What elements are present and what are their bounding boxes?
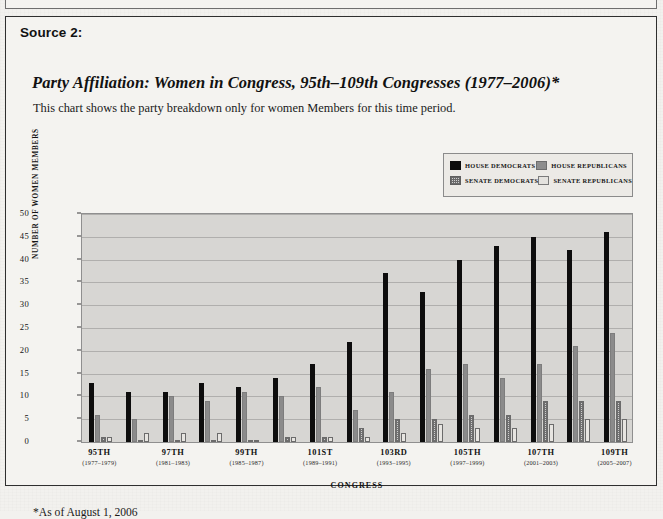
bar-hd [310, 364, 315, 442]
bar-group [126, 214, 150, 442]
bar-hd [236, 387, 241, 442]
bar-hd [604, 232, 609, 442]
x-axis-title: CONGRESS [81, 481, 633, 490]
bar-hd [199, 383, 204, 442]
bar-hd [567, 250, 572, 442]
legend-row-1: HOUSE DEMOCRATS HOUSE REPUBLICANS [450, 158, 627, 173]
y-axis-title: NUMBER OF WOMEN MEMBERS [32, 129, 40, 259]
bar-group [494, 214, 518, 442]
legend-label-house-republicans: HOUSE REPUBLICANS [551, 162, 627, 169]
x-tick-years: (1993–1995) [377, 459, 411, 466]
legend-swatch-house-democrats [450, 161, 461, 170]
plot-area [81, 213, 633, 443]
bar-hd [531, 237, 536, 442]
y-tick-label: 50 [0, 208, 29, 218]
x-tick-congress: 99TH [230, 448, 264, 457]
bar-sd [359, 428, 364, 442]
legend-item-house-democrats: HOUSE DEMOCRATS [450, 161, 536, 170]
bar-sr [438, 424, 443, 442]
y-tick-label: 30 [0, 299, 29, 309]
x-tick-congress: 109TH [598, 448, 632, 457]
bar-group [457, 214, 481, 442]
bar-sr [585, 419, 590, 442]
x-tick-years: (1977–1979) [82, 459, 116, 466]
bar-group [383, 214, 407, 442]
x-tick-congress: 101ST [303, 448, 337, 457]
legend-swatch-house-republicans [536, 161, 547, 170]
x-tick-label: 105TH(1997–1999) [450, 443, 484, 466]
bar-hd [273, 378, 278, 442]
bar-sd [322, 437, 327, 442]
bar-sr [512, 428, 517, 442]
bar-chart: NUMBER OF WOMEN MEMBERS 0510152025303540… [33, 207, 633, 452]
y-tick-label: 5 [0, 413, 29, 423]
x-tick-label: 109TH(2005–2007) [598, 443, 632, 466]
bar-sr [217, 433, 222, 442]
bar-hr [205, 401, 210, 442]
x-tick-years: (2001–2003) [524, 459, 558, 466]
bar-sr [475, 428, 480, 442]
bar-hr [95, 415, 100, 442]
x-tick-label: 99TH(1985–1987) [230, 443, 264, 466]
y-tick-label: 20 [0, 345, 29, 355]
bar-group [420, 214, 444, 442]
x-tick-years: (1997–1999) [450, 459, 484, 466]
x-tick-congress: 95TH [82, 448, 116, 457]
bar-sr [365, 437, 370, 442]
bar-group [567, 214, 591, 442]
x-tick-label: 95TH(1977–1979) [82, 443, 116, 466]
bar-hr [573, 346, 578, 442]
x-tick-congress: 97TH [156, 448, 190, 457]
bar-hd [420, 292, 425, 442]
bar-group [163, 214, 187, 442]
legend-item-senate-republicans: SENATE REPUBLICANS [538, 176, 632, 185]
bar-sd [211, 440, 216, 442]
bar-sd [395, 419, 400, 442]
bar-group [310, 214, 334, 442]
bar-hd [457, 260, 462, 442]
bar-group [273, 214, 297, 442]
bar-hr [132, 419, 137, 442]
bar-group [199, 214, 223, 442]
bar-groups [82, 214, 632, 442]
bar-sd [543, 401, 548, 442]
legend-item-senate-democrats: SENATE DEMOCRATS [450, 176, 538, 185]
y-tick-label: 35 [0, 276, 29, 286]
x-axis-ticks: 95TH(1977–1979)97TH(1981–1983)99TH(1985–… [81, 443, 633, 477]
y-tick-label: 40 [0, 254, 29, 264]
bar-sd [248, 440, 253, 442]
x-tick-years: (2005–2007) [598, 459, 632, 466]
bar-hr [389, 392, 394, 442]
bar-sr [254, 440, 259, 442]
bar-sr [328, 437, 333, 442]
x-tick-years: (1985–1987) [230, 459, 264, 466]
bar-group [89, 214, 113, 442]
legend-label-senate-republicans: SENATE REPUBLICANS [553, 177, 632, 184]
bar-hr [610, 333, 615, 442]
source-2-box: Source 2: Party Affiliation: Women in Co… [5, 16, 657, 486]
bar-hd [163, 392, 168, 442]
bar-sr [144, 433, 149, 442]
legend-row-2: SENATE DEMOCRATS SENATE REPUBLICANS [450, 173, 627, 188]
bar-hr [500, 378, 505, 442]
legend-swatch-senate-republicans [538, 176, 549, 185]
source-label: Source 2: [20, 25, 82, 40]
bar-hd [126, 392, 131, 442]
bar-hd [89, 383, 94, 442]
chart-title: Party Affiliation: Women in Congress, 95… [32, 73, 559, 93]
x-tick-congress: 107TH [524, 448, 558, 457]
bar-sd [432, 419, 437, 442]
y-tick-label: 25 [0, 322, 29, 332]
x-tick-congress: 103RD [377, 448, 411, 457]
bar-hd [494, 246, 499, 442]
x-tick-label: 101ST(1989–1991) [303, 443, 337, 466]
chart-legend: HOUSE DEMOCRATS HOUSE REPUBLICANS SENATE… [443, 153, 633, 197]
y-tick-label: 15 [0, 368, 29, 378]
bar-hd [347, 342, 352, 442]
bar-hr [169, 396, 174, 442]
bar-sd [138, 440, 143, 442]
bar-sr [291, 437, 296, 442]
bar-sd [579, 401, 584, 442]
bar-hr [353, 410, 358, 442]
bar-hr [242, 392, 247, 442]
